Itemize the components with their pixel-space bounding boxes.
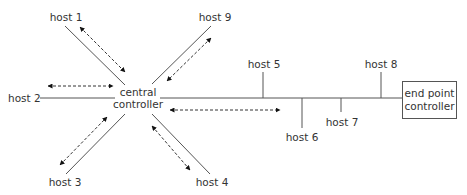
label-host8: host 8 — [365, 58, 398, 70]
central-controller-node: central controller — [113, 86, 163, 110]
end-point-controller-line1: end point — [404, 87, 454, 100]
label-host1: host 1 — [50, 11, 83, 23]
diagram-canvas — [0, 0, 467, 195]
link-host9 — [152, 26, 211, 84]
central-controller-line2: controller — [113, 98, 163, 110]
arrow-host1 — [80, 27, 125, 72]
label-host2: host 2 — [8, 92, 41, 104]
label-host9: host 9 — [199, 11, 232, 23]
arrow-host9 — [167, 38, 211, 81]
label-host5: host 5 — [248, 58, 281, 70]
central-controller-line1: central — [113, 86, 163, 98]
label-host6: host 6 — [286, 131, 319, 143]
arrow-host3 — [60, 117, 107, 165]
link-host3 — [66, 114, 125, 174]
link-host1 — [65, 26, 125, 85]
label-host7: host 7 — [326, 116, 359, 128]
label-host4: host 4 — [196, 176, 229, 188]
label-host3: host 3 — [49, 176, 82, 188]
end-point-controller-node: end point controller — [402, 81, 457, 119]
end-point-controller-line2: controller — [404, 100, 454, 113]
link-host4 — [152, 114, 210, 174]
